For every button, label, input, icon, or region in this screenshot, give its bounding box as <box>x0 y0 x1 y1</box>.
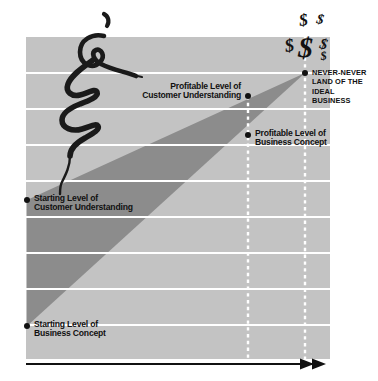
label-never-never-land: NEVER-NEVER LAND OF THE IDEAL BUSINESS <box>312 68 378 105</box>
label-starting-customer-understanding: Starting Level of Customer Understanding <box>34 194 164 213</box>
money-symbols-group: $ $ $ $ $ $ <box>282 10 329 64</box>
dollar-sign-icon: $ <box>314 11 324 27</box>
label-profitable-customer-understanding: Profitable Level of Customer Understandi… <box>128 82 241 101</box>
dollar-sign-icon: $ <box>319 48 327 63</box>
dot-never-never-land <box>302 70 308 76</box>
dot-starting-customer-understanding <box>24 197 30 203</box>
dot-starting-business-concept <box>24 323 30 329</box>
dot-profitable-customer-understanding <box>245 93 251 99</box>
dollar-sign-icon: $ <box>297 31 314 64</box>
figure-canvas: $ $ $ $ $ $ NEVER-NEVER LAND OF THE IDEA… <box>0 0 378 381</box>
time-arrow-icon <box>26 359 326 370</box>
dollar-sign-icon: $ <box>297 10 310 30</box>
dot-profitable-business-concept <box>245 132 251 138</box>
label-profitable-business-concept: Profitable Level of Business Concept <box>255 129 367 148</box>
label-starting-business-concept: Starting Level of Business Concept <box>34 320 164 339</box>
